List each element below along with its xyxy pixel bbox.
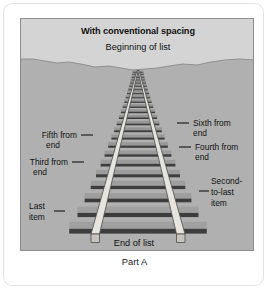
label-sixth-from-end-line1: Sixth from <box>193 118 231 128</box>
part-caption: Part A <box>4 256 265 267</box>
railroad-perspective-illustration: With conventional spacing Beginning of l… <box>21 19 254 251</box>
left-rail-end-face <box>91 234 100 243</box>
label-last-item-line2: item <box>29 212 45 222</box>
label-sixth-from-end-line2: end <box>193 128 207 138</box>
tie-2-second-to-last-item <box>78 207 199 217</box>
tie-1-last-item <box>69 222 207 234</box>
tie-far-20 <box>130 81 146 84</box>
right-rail-end-face <box>177 234 186 243</box>
figure-card: With conventional spacing Beginning of l… <box>3 3 264 286</box>
tie-far-21 <box>131 78 145 80</box>
label-second-to-last-line3: item <box>211 198 227 208</box>
tie-far-18 <box>128 88 148 91</box>
label-third-from-end-line1: Third from <box>30 157 68 167</box>
label-fifth-from-end-line1: Fifth from <box>42 130 77 140</box>
tie-far-23 <box>132 73 144 75</box>
label-last-item-line1: Last <box>29 201 46 211</box>
tie-far-22 <box>132 76 145 78</box>
label-third-from-end-line2: end <box>33 167 47 177</box>
beginning-of-list-caption: Beginning of list <box>106 42 171 52</box>
tie-far-19 <box>129 84 147 87</box>
label-fifth-from-end-line2: end <box>46 140 60 150</box>
label-second-to-last-line1: Second- <box>211 176 242 186</box>
illustration-panel: With conventional spacing Beginning of l… <box>20 18 254 251</box>
end-of-list-caption: End of list <box>114 238 155 248</box>
label-fourth-from-end-line2: end <box>195 152 209 162</box>
label-fourth-from-end-line1: Fourth from <box>195 142 238 152</box>
panel-title: With conventional spacing <box>81 26 195 36</box>
label-second-to-last-line2: to-last <box>211 187 234 197</box>
